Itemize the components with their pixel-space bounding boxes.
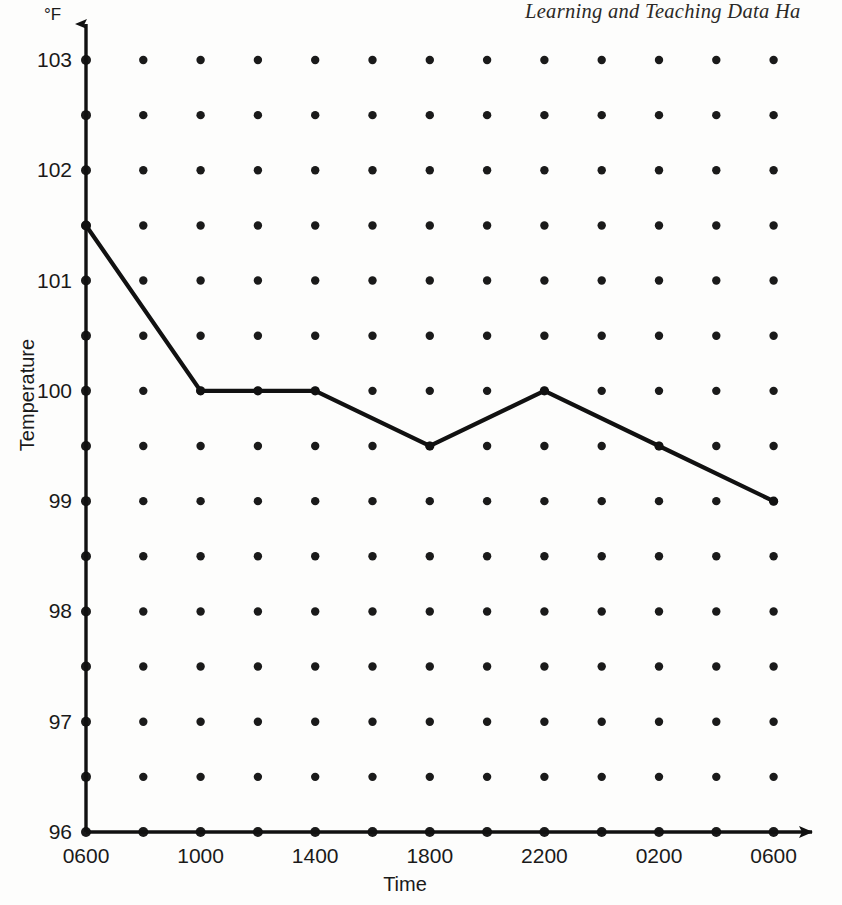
grid-dot	[196, 332, 204, 340]
x-tick-label-1: 1000	[161, 845, 241, 866]
grid-dot	[426, 497, 434, 505]
data-point-0600-101.5	[81, 221, 90, 230]
grid-dot	[483, 111, 491, 119]
grid-dot	[540, 221, 548, 229]
grid-dot	[655, 276, 663, 284]
grid-dot	[139, 497, 147, 505]
grid-dot	[712, 718, 720, 726]
grid-dot	[598, 552, 606, 560]
grid-dot	[712, 221, 720, 229]
grid-dot	[196, 718, 204, 726]
grid-dot	[139, 662, 147, 670]
grid-dot	[769, 387, 777, 395]
x-axis-title: Time	[345, 874, 465, 894]
grid-dot	[598, 718, 606, 726]
grid-dot	[598, 497, 606, 505]
grid-dot	[139, 221, 147, 229]
y-tick-label-97: 97	[24, 711, 72, 732]
grid-dot	[769, 111, 777, 119]
grid-dot	[598, 221, 606, 229]
grid-dot	[712, 662, 720, 670]
grid-dot	[368, 718, 376, 726]
x-tick-label-3: 1800	[390, 845, 470, 866]
grid-dot	[769, 56, 777, 64]
data-point-0600-99	[769, 497, 778, 506]
y-tick-label-96: 96	[24, 821, 72, 842]
grid-dot	[254, 56, 262, 64]
grid-dot	[540, 111, 548, 119]
x-tick-label-4: 2200	[504, 845, 584, 866]
grid-dot	[311, 442, 319, 450]
grid-dot	[598, 442, 606, 450]
grid-dot	[311, 276, 319, 284]
grid-dot	[368, 111, 376, 119]
data-point-2200-100	[540, 386, 549, 395]
grid-dot	[196, 497, 204, 505]
grid-dot	[139, 387, 147, 395]
grid-dot	[483, 662, 491, 670]
x-tick-label-5: 0200	[619, 845, 699, 866]
grid-dot	[426, 221, 434, 229]
grid-dot	[540, 773, 548, 781]
grid-dot	[598, 111, 606, 119]
grid-dot	[139, 166, 147, 174]
y-tick-label-99: 99	[24, 490, 72, 511]
grid-dot	[368, 497, 376, 505]
y-tick-label-101: 101	[24, 270, 72, 291]
grid-dot	[483, 221, 491, 229]
chart-plot-svg	[0, 0, 842, 905]
grid-dot	[254, 773, 262, 781]
x-tick-label-6: 0600	[734, 845, 814, 866]
grid-dot	[540, 332, 548, 340]
data-point-markers	[81, 221, 778, 506]
grid-dot	[254, 111, 262, 119]
grid-dot	[254, 718, 262, 726]
grid-dot	[712, 387, 720, 395]
y-tick-label-103: 103	[24, 49, 72, 70]
grid-dot	[598, 276, 606, 284]
grid-dot	[311, 773, 319, 781]
grid-dot	[769, 442, 777, 450]
grid-dot	[426, 332, 434, 340]
grid-dot	[540, 56, 548, 64]
grid-dot	[311, 662, 319, 670]
data-point-1400-100	[311, 386, 320, 395]
grid-dot	[655, 773, 663, 781]
grid-dot	[254, 662, 262, 670]
temperature-data-line	[86, 225, 774, 501]
grid-dot	[311, 221, 319, 229]
grid-dot	[769, 607, 777, 615]
grid-dot	[254, 332, 262, 340]
grid-dot	[483, 607, 491, 615]
grid-dot	[139, 56, 147, 64]
grid-dot	[196, 56, 204, 64]
grid-dot	[426, 387, 434, 395]
grid-dot	[311, 111, 319, 119]
grid-dot	[712, 56, 720, 64]
grid-dot	[368, 276, 376, 284]
grid-dot	[196, 662, 204, 670]
grid-dot	[311, 718, 319, 726]
grid-dot	[769, 276, 777, 284]
grid-dot	[483, 442, 491, 450]
y-tick-label-100: 100	[24, 380, 72, 401]
grid-dot	[254, 552, 262, 560]
grid-dot	[712, 773, 720, 781]
grid-dot	[712, 552, 720, 560]
grid-dot	[769, 662, 777, 670]
grid-dot	[540, 442, 548, 450]
grid-dot	[655, 387, 663, 395]
grid-dot	[254, 276, 262, 284]
grid-dot	[196, 552, 204, 560]
grid-dot	[769, 221, 777, 229]
grid-dot	[139, 276, 147, 284]
x-tick-label-0: 0600	[46, 845, 126, 866]
grid-dot	[196, 276, 204, 284]
grid-dot	[426, 718, 434, 726]
grid-dot	[712, 332, 720, 340]
grid-dot	[368, 773, 376, 781]
grid-dot	[311, 552, 319, 560]
grid-dot	[196, 111, 204, 119]
grid-dot	[712, 607, 720, 615]
grid-dot	[196, 221, 204, 229]
